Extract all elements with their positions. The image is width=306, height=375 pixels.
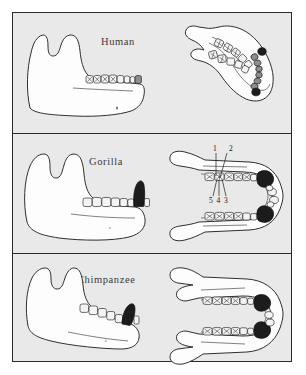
human-lateral-view xyxy=(27,35,144,116)
human-lateral-tooth-row xyxy=(86,75,141,84)
chimpanzee-canine-upper xyxy=(254,295,271,312)
cusp-label-5: 5 xyxy=(209,196,213,205)
chimpanzee-canine-lateral xyxy=(122,304,135,326)
comparative-jaw-figure: Human xyxy=(0,0,306,375)
gorilla-canine-lower xyxy=(257,206,274,223)
gorilla-occlusal-row-upper xyxy=(205,173,257,181)
gorilla-canine-upper xyxy=(257,171,274,188)
chimpanzee-occlusal-row-lower xyxy=(203,328,254,335)
chimpanzee-occlusal-view xyxy=(170,268,283,364)
gorilla-lateral-tooth-row xyxy=(83,181,150,207)
panel-gorilla: Gorilla c xyxy=(13,133,291,253)
gorilla-occlusal-view: 1 2 5 4 3 xyxy=(170,144,283,241)
chimpanzee-illustrations: c xyxy=(13,254,291,360)
chimpanzee-lateral-view: c xyxy=(26,268,139,349)
gorilla-occlusal-row-lower xyxy=(205,212,257,220)
figure-frame: Human xyxy=(12,12,292,362)
gorilla-canine-lateral xyxy=(134,181,145,207)
cusp-label-3: 3 xyxy=(224,196,228,205)
panel-chimpanzee: Chimpanzee c xyxy=(13,253,291,360)
human-occlusal-view xyxy=(185,26,273,101)
human-canine-right xyxy=(258,48,266,56)
cusp-label-4: 4 xyxy=(217,196,221,205)
human-illustrations xyxy=(13,13,291,133)
cusp-label-1: 1 xyxy=(213,144,217,153)
cusp-label-2: 2 xyxy=(229,144,233,153)
chimpanzee-occlusal-row-upper xyxy=(203,297,254,304)
human-canine-left xyxy=(252,88,260,96)
gorilla-illustrations: c xyxy=(13,134,291,253)
human-canine-lateral xyxy=(135,76,141,84)
gorilla-lateral-view: c xyxy=(25,154,150,240)
panel-human: Human xyxy=(13,13,291,133)
